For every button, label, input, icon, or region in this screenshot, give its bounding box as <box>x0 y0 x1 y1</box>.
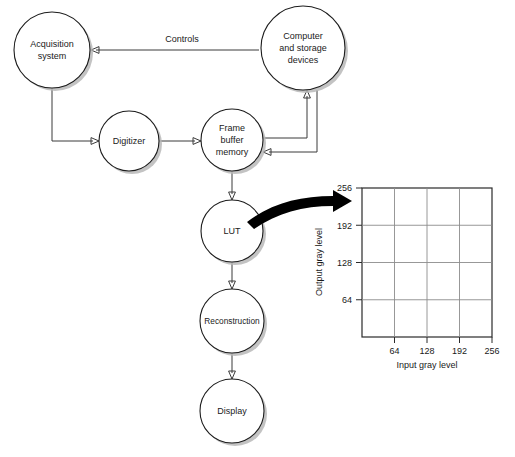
chart-ytick-64: 64 <box>342 295 352 305</box>
edge-lut-to-reconstruction <box>229 262 236 289</box>
node-label-frame-buffer-line1: Frame <box>219 123 245 133</box>
node-label-frame-buffer-line2: buffer <box>221 135 244 145</box>
edge-frame-buffer-to-lut <box>229 171 236 200</box>
edge-computer-to-acquisition <box>91 47 259 54</box>
node-label-lut: LUT <box>223 226 241 236</box>
edge-computer-to-frame-buffer <box>263 90 317 155</box>
edge-label-controls: Controls <box>165 34 199 44</box>
node-reconstruction[interactable]: Reconstruction <box>200 289 267 356</box>
node-label-frame-buffer-line3: memory <box>216 147 249 157</box>
node-label-digitizer: Digitizer <box>113 136 146 146</box>
node-display[interactable]: Display <box>200 379 267 446</box>
chart-xaxis-title: Input gray level <box>396 360 457 370</box>
lut-transfer-function-chart: 256 192 128 64 64 128 192 256 Input gray… <box>314 183 500 370</box>
node-label-display: Display <box>217 406 247 416</box>
node-computer-and-storage-devices[interactable]: Computer and storage devices <box>261 6 348 93</box>
chart-xtick-64: 64 <box>389 346 399 356</box>
node-frame-buffer-memory[interactable]: Frame buffer memory <box>201 109 266 174</box>
chart-ytick-256: 256 <box>337 183 352 193</box>
edge-digitizer-to-frame-buffer <box>159 138 201 145</box>
chart-xtick-256: 256 <box>484 346 499 356</box>
node-label-computer-line3: devices <box>288 55 319 65</box>
node-label-computer-line2: and storage <box>279 43 327 53</box>
node-label-computer-line1: Computer <box>283 31 323 41</box>
chart-yaxis-title: Output gray level <box>314 228 324 296</box>
node-label-acquisition-line2: system <box>38 51 67 61</box>
chart-ytick-192: 192 <box>337 221 352 231</box>
node-acquisition-system[interactable]: Acquisition system <box>14 12 93 91</box>
edge-acquisition-to-digitizer <box>52 88 99 144</box>
node-lut[interactable]: LUT <box>201 200 266 265</box>
edge-reconstruction-to-display <box>229 353 236 379</box>
chart-ytick-128: 128 <box>337 258 352 268</box>
edge-frame-buffer-to-computer <box>263 90 310 138</box>
node-layer: Acquisition system Computer and storage … <box>14 6 348 446</box>
node-digitizer[interactable]: Digitizer <box>99 111 162 174</box>
node-label-acquisition-line1: Acquisition <box>30 39 74 49</box>
block-diagram: Acquisition system Computer and storage … <box>0 0 515 457</box>
diagram-canvas: Acquisition system Computer and storage … <box>0 0 515 457</box>
node-label-reconstruction: Reconstruction <box>204 316 260 326</box>
chart-xtick-128: 128 <box>419 346 434 356</box>
chart-xtick-192: 192 <box>452 346 467 356</box>
